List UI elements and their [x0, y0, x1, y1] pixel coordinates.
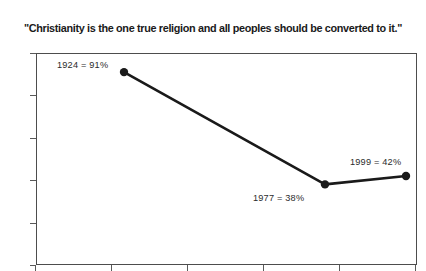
data-label-1977: 1977 = 38% — [253, 193, 304, 203]
x-axis-tick-3 — [263, 265, 264, 271]
chart-page: "Christianity is the one true religion a… — [0, 0, 426, 271]
x-axis-tick-2 — [187, 265, 188, 271]
y-axis-tick-20 — [30, 223, 36, 224]
data-label-1924: 1924 = 91% — [57, 60, 108, 70]
y-axis-tick-60 — [30, 138, 36, 139]
x-axis-tick-1 — [111, 265, 112, 271]
data-label-1999: 1999 = 42% — [350, 157, 401, 167]
x-axis-tick-0 — [35, 265, 36, 271]
y-axis-tick-40 — [30, 180, 36, 181]
x-axis-tick-4 — [339, 265, 340, 271]
y-axis-tick-100 — [30, 53, 36, 54]
x-axis-tick-5 — [415, 265, 416, 271]
chart-title: "Christianity is the one true religion a… — [9, 22, 418, 34]
y-axis-tick-80 — [30, 95, 36, 96]
